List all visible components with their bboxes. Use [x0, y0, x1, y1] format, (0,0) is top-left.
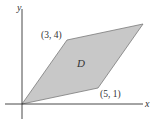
- y-axis-label: y: [16, 2, 22, 13]
- region-diagram: x y (3, 4) (5, 1) D: [0, 0, 154, 124]
- vertex-label-3-4: (3, 4): [41, 30, 62, 41]
- vertex-label-5-1: (5, 1): [100, 89, 121, 100]
- region-label: D: [76, 57, 85, 69]
- x-axis-label: x: [144, 98, 150, 109]
